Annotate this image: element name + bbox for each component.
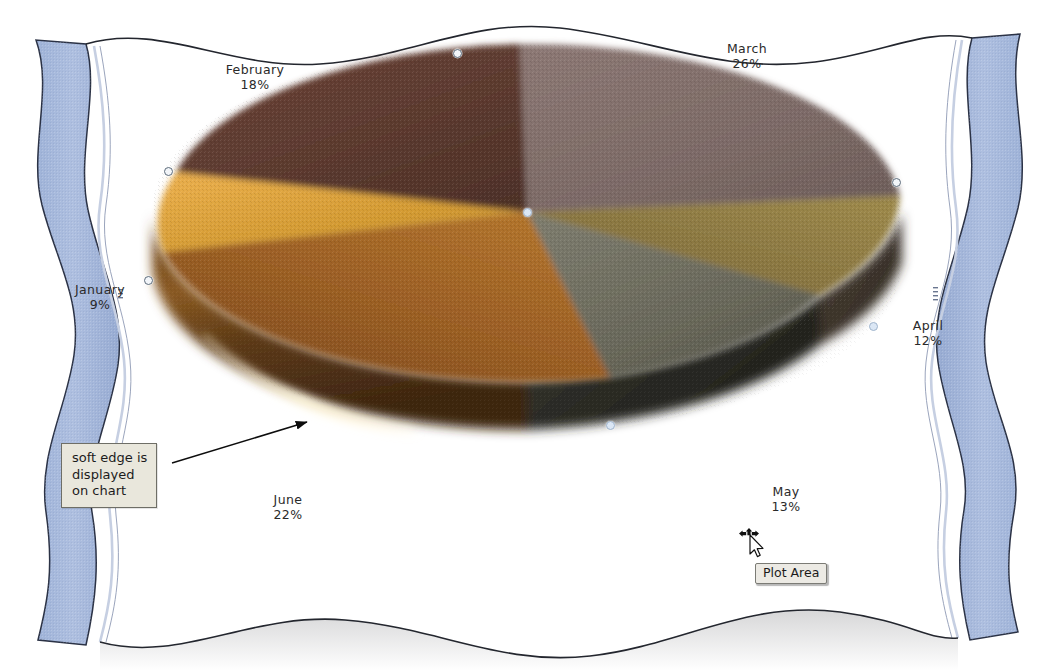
data-label-may-name: May [738,484,834,499]
data-label-march-name: March [692,41,802,56]
data-label-january-name: January [45,282,155,297]
book-page: February 18% March 26% January 9% April … [0,0,1055,671]
callout-line-2: displayed [72,467,147,484]
data-label-june-name: June [240,492,336,507]
data-label-april: April 12% [880,318,976,348]
move-cursor-icon [738,527,768,561]
selection-handle-left[interactable] [144,276,153,285]
data-label-april-percent: 12% [880,333,976,348]
plot-area-tooltip: Plot Area [755,563,827,584]
data-label-may-percent: 13% [738,499,834,514]
pie-3d-body[interactable] [140,30,920,450]
callout-line-3: on chart [72,483,147,500]
selection-handle-center[interactable] [523,208,532,217]
data-label-february: February 18% [195,62,315,92]
data-label-january-percent: 9% [45,297,155,312]
data-label-june-percent: 22% [240,507,336,522]
data-label-may: May 13% [738,484,834,514]
selection-handle-bottom[interactable] [606,421,615,430]
data-label-january: January 9% [45,282,155,312]
data-label-february-name: February [195,62,315,77]
selection-handle-top-left[interactable] [164,167,173,176]
selection-handle-right[interactable] [892,178,901,187]
data-label-march: March 26% [692,41,802,71]
selection-handle-top[interactable] [453,49,462,58]
data-label-june: June 22% [240,492,336,522]
callout-box: soft edge is displayed on chart [61,443,157,508]
callout-line-1: soft edge is [72,450,147,467]
data-label-april-name: April [880,318,976,333]
selection-handle-right-lower[interactable] [869,322,878,331]
tooltip-label: Plot Area [763,565,819,580]
data-label-february-percent: 18% [195,77,315,92]
chart-plot-area[interactable]: February 18% March 26% January 9% April … [0,0,1055,671]
data-label-march-percent: 26% [692,56,802,71]
